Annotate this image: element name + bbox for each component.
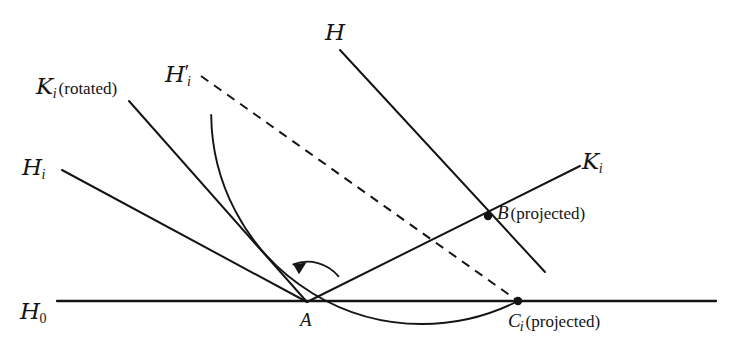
label-h-prime-i-sub: i xyxy=(187,74,191,89)
label-h-0-sub: 0 xyxy=(40,311,47,326)
label-h-0-base: H xyxy=(20,298,41,324)
label-h-0: H0 xyxy=(20,300,47,326)
label-point-c-i: Ci(projected) xyxy=(508,311,600,334)
point-c-i-dot xyxy=(514,297,522,305)
label-h-base: H xyxy=(325,19,346,45)
label-point-b-paren: (projected) xyxy=(511,204,586,223)
rotation-arrowhead-icon xyxy=(293,263,306,275)
label-h-prime-i: H′i xyxy=(165,62,191,89)
label-point-a: A xyxy=(300,310,312,329)
label-h-prime-i-base: H xyxy=(165,61,186,87)
label-point-c-i-paren: (projected) xyxy=(526,312,601,331)
label-k-i-rotated: Ki(rotated) xyxy=(36,75,117,101)
geometry-figure: Ki(rotated) H′i H Hi Ki H0 A B(projected… xyxy=(0,0,740,355)
label-h-i: Hi xyxy=(22,156,45,182)
label-k-i: Ki xyxy=(582,150,603,176)
label-point-b: B(projected) xyxy=(497,203,585,222)
label-h: H xyxy=(325,21,346,44)
ray-h-i xyxy=(62,170,307,302)
label-k-i-base: K xyxy=(582,148,600,174)
label-point-a-text: A xyxy=(300,309,312,330)
line-h xyxy=(340,50,545,272)
label-k-i-rotated-base: K xyxy=(36,73,54,99)
label-h-i-base: H xyxy=(22,154,43,180)
ray-k-i xyxy=(307,166,580,302)
label-h-i-sub: i xyxy=(42,167,46,182)
label-k-i-rotated-sub: i xyxy=(53,86,57,101)
point-b-dot xyxy=(484,212,492,220)
label-k-i-rotated-paren: (rotated) xyxy=(59,79,118,98)
label-point-b-text: B xyxy=(497,202,509,223)
diagram-canvas xyxy=(0,0,740,355)
label-point-c-i-sub: i xyxy=(520,319,524,334)
line-h-prime-i-dashed xyxy=(201,76,518,301)
label-k-i-sub: i xyxy=(599,161,603,176)
label-point-c-i-base: C xyxy=(508,310,521,331)
